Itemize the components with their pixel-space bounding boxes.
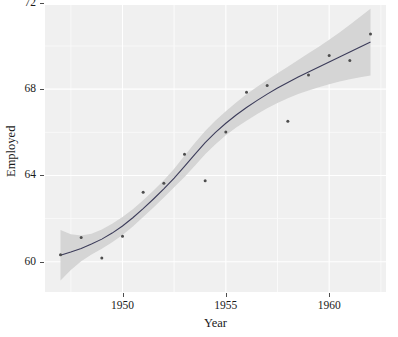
- data-point: [142, 191, 145, 194]
- data-point: [286, 120, 289, 123]
- x-tick-label: 1950: [93, 300, 153, 312]
- y-tick-label: 72: [6, 0, 36, 8]
- y-tick-label: 68: [6, 83, 36, 95]
- data-point: [59, 253, 62, 256]
- data-point: [80, 236, 83, 239]
- y-tick-mark: [40, 3, 44, 4]
- data-point: [307, 74, 310, 77]
- y-tick-mark: [40, 262, 44, 263]
- plot-svg: [0, 0, 398, 337]
- data-point: [348, 59, 351, 62]
- data-point: [369, 33, 372, 36]
- x-tick-label: 1955: [196, 300, 256, 312]
- x-tick-mark: [123, 293, 124, 297]
- y-tick-mark: [40, 175, 44, 176]
- chart-root: 60646872 195019551960 Year Employed: [0, 0, 398, 337]
- x-tick-mark: [329, 293, 330, 297]
- y-tick-label: 60: [6, 256, 36, 268]
- data-point: [224, 130, 227, 133]
- y-tick-mark: [40, 89, 44, 90]
- confidence-band: [61, 9, 371, 281]
- x-tick-label: 1960: [299, 300, 359, 312]
- data-point: [183, 153, 186, 156]
- data-point: [245, 91, 248, 94]
- data-point: [328, 54, 331, 57]
- data-point: [204, 179, 207, 182]
- x-axis-label: Year: [17, 316, 398, 331]
- y-axis-label: Employed: [4, 125, 19, 176]
- x-tick-mark: [226, 293, 227, 297]
- data-point: [100, 257, 103, 260]
- data-point: [121, 235, 124, 238]
- data-point: [266, 84, 269, 87]
- data-point: [162, 182, 165, 185]
